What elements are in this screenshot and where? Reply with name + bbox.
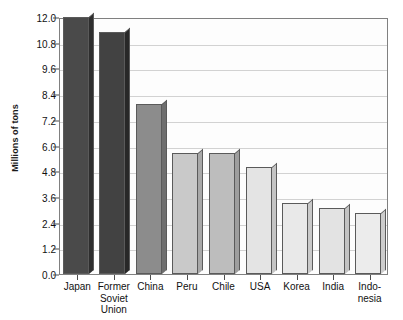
x-tick-mark (187, 275, 188, 280)
x-tick-label: Indo- nesia (347, 281, 392, 304)
bar (246, 167, 272, 274)
bar (355, 213, 381, 274)
y-tick-label: 8.4 (22, 90, 56, 101)
y-tick-label: 6.0 (22, 141, 56, 152)
bar (172, 153, 198, 274)
bar-face (209, 153, 235, 274)
bar-face (136, 104, 162, 274)
bar-side (198, 149, 203, 274)
x-tick-mark (77, 275, 78, 280)
bar-side (89, 13, 94, 274)
y-tick-label: 10.8 (22, 38, 56, 49)
y-tick-label: 7.2 (22, 115, 56, 126)
y-tick-label: 9.6 (22, 64, 56, 75)
bar-face (355, 213, 381, 274)
y-tick-label: 3.6 (22, 192, 56, 203)
bar-side (381, 209, 386, 274)
x-tick-mark (370, 275, 371, 280)
x-tick-mark (260, 275, 261, 280)
bar (282, 203, 308, 274)
y-axis-title-label: Millions of tons (10, 104, 20, 172)
bar (136, 104, 162, 274)
bar-side (272, 163, 277, 274)
x-tick-mark (297, 275, 298, 280)
y-tick-label: 2.4 (22, 218, 56, 229)
bar-side (345, 203, 350, 274)
y-tick-label: 0.0 (22, 270, 56, 281)
bar-face (99, 32, 125, 274)
bar-side (162, 100, 167, 274)
y-tick-label: 4.8 (22, 167, 56, 178)
bar (209, 153, 235, 274)
bar-face (282, 203, 308, 274)
x-tick-mark (150, 275, 151, 280)
x-tick-mark (333, 275, 334, 280)
bar (63, 17, 89, 274)
y-tick-label: 1.2 (22, 244, 56, 255)
bar (99, 32, 125, 274)
plot-inner (60, 19, 387, 274)
bar-chart: Millions of tons 0.01.22.43.64.86.07.28.… (0, 0, 403, 320)
x-tick-mark (114, 275, 115, 280)
plot-area (59, 18, 388, 275)
bar-face (63, 17, 89, 274)
bar (319, 208, 345, 274)
bar-side (308, 199, 313, 274)
bar-side (235, 149, 240, 274)
x-tick-mark (224, 275, 225, 280)
bar-side (125, 28, 130, 274)
bar-face (319, 208, 345, 274)
bar-face (172, 153, 198, 274)
bar-face (246, 167, 272, 274)
y-tick-label: 12.0 (22, 13, 56, 24)
